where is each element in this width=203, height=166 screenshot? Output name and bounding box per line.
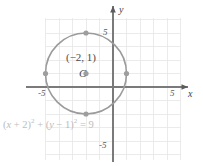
y-axis-tick-5-label: 5 [103, 28, 108, 37]
x-axis-tick-minus5-label: -5 [38, 89, 46, 98]
point-top [83, 30, 88, 35]
eq-part-5: = 9 [77, 119, 93, 130]
circle-equation-label: (x + 2)2 + (y − 1)2 = 9 [3, 118, 94, 130]
circle-graph-figure: 5 -5 -5 5 y x (−2, 1) C (x + 2)2 + (y − … [0, 0, 203, 166]
eq-part-2: + 2) [11, 119, 31, 130]
point-left [43, 71, 48, 76]
x-axis-label: x [188, 89, 192, 99]
center-coordinates-label: (−2, 1) [66, 52, 96, 63]
center-symbol-label: C [79, 68, 86, 79]
y-axis-tick-minus5-label: -5 [99, 141, 107, 150]
y-axis [110, 6, 116, 162]
eq-part-3: + ( [35, 119, 50, 130]
x-axis-tick-5-label: 5 [170, 89, 175, 98]
point-bottom [83, 111, 88, 116]
eq-part-4: − 1) [54, 119, 74, 130]
point-right [124, 71, 129, 76]
y-axis-arrowhead [110, 6, 116, 13]
x-axis [26, 84, 188, 90]
y-axis-label: y [119, 5, 123, 15]
